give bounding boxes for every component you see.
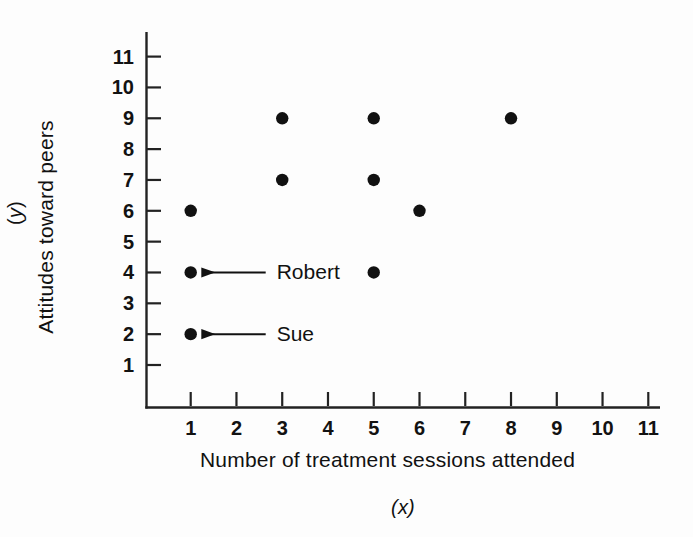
y-axis-tick-label: 9 [100,108,134,128]
data-point [413,205,425,217]
data-point [276,112,288,124]
y-axis-tick-label: 5 [100,232,134,252]
x-axis-tick-label: 9 [551,418,562,438]
y-axis-tick-label: 2 [100,324,134,344]
x-axis-ticks [191,392,649,406]
y-axis-title-wrapper: Attitudes toward peers [34,77,64,377]
axis-lines [145,32,660,409]
annotation-arrows [203,272,266,334]
y-axis-tick-label: 11 [100,47,134,67]
y-axis-title: Attitudes toward peers [34,120,58,333]
data-point [368,266,380,278]
data-point [368,112,380,124]
x-axis-title: Number of treatment sessions attended [200,448,575,472]
x-axis-tick-label: 6 [414,418,425,438]
y-axis-tick-label: 1 [100,355,134,375]
x-axis-tick-label: 3 [277,418,288,438]
y-axis-tick-label: 6 [100,201,134,221]
data-point [185,328,197,340]
data-point-markers [185,112,518,340]
scatter-plot-figure: 1234567891011 1234567891011 RobertSue Nu… [0,0,693,537]
data-point [276,174,288,186]
y-axis-tick-label: 8 [100,139,134,159]
annotation-label-robert: Robert [277,260,340,284]
y-axis-tick-label: 3 [100,293,134,313]
x-axis-tick-label: 10 [591,418,613,438]
data-point [505,112,517,124]
x-axis-tick-label: 2 [231,418,242,438]
annotation-label-sue: Sue [277,322,314,346]
y-axis-variable-label: (y) [4,201,27,225]
x-axis-tick-label: 1 [185,418,196,438]
x-axis-tick-label: 8 [505,418,516,438]
x-axis-tick-label: 7 [460,418,471,438]
y-axis-ticks [147,57,161,365]
y-axis-tick-label: 7 [100,170,134,190]
x-axis-tick-label: 4 [322,418,333,438]
y-axis-tick-label: 4 [100,262,134,282]
data-point [185,266,197,278]
x-axis-variable-label: (x) [391,496,415,519]
data-point [368,174,380,186]
x-axis-tick-label: 11 [638,418,659,438]
y-axis-tick-label: 10 [100,77,134,97]
data-point [185,205,197,217]
x-axis-tick-label: 5 [368,418,379,438]
y-axis-variable-wrapper: (y) [4,133,32,293]
